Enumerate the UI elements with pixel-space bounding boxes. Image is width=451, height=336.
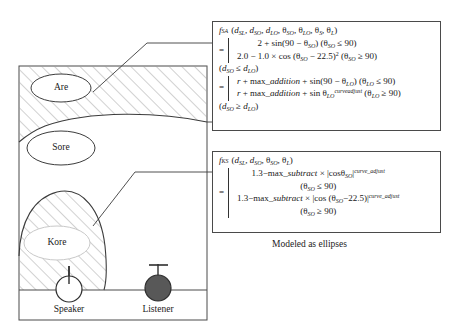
equals-sign: = (219, 46, 228, 56)
ellipse-label-sore: Sore (41, 143, 81, 153)
case-brace (228, 38, 234, 63)
formula-ks-case1-line1: 1.3−max_subtract × |cosθSO|curve_adjust (237, 168, 399, 181)
ellipse-label-kore: Kore (37, 238, 77, 248)
actor-label-speaker: Speaker (44, 305, 94, 315)
formula-sa-cases-1: = 2 + sin(90 − θSO) (θSO ≤ 90) 2.0 − 1.0… (219, 38, 435, 63)
formula-sa-case1-line2: 2.0 − 1.0 × cos (θSO − 22.5)2 (θSO ≥ 90) (237, 51, 377, 64)
case-brace (228, 168, 234, 218)
figure-root: Are Sore Kore Speaker Listener fSA (dSL,… (0, 0, 451, 336)
formula-sa-case1-line1: 2 + sin(90 − θSO) (θSO ≤ 90) (237, 38, 377, 50)
formula-ks-signature: fKS (dSL, dSO, θSO, θL) (219, 156, 435, 166)
formula-ks-case2-condition: (θSO ≥ 90) (237, 206, 399, 218)
formula-sa-cases-2: = r + max_addition + sin(90 − θLO) (θLO … (219, 76, 435, 101)
formula-sa-condition-2: (dSO ≥ dLO) (219, 102, 435, 112)
formula-sa-signature: fSA (dSL, dSO, dLO, θSO, θLO, θS, θL) (219, 26, 435, 36)
caption-modeled-as-ellipses: Modeled as ellipses (272, 240, 347, 250)
ellipse-label-are: Are (41, 83, 81, 93)
formula-box-ks: fKS (dSL, dSO, θSO, θL) = 1.3−max_subtra… (212, 151, 441, 233)
formula-sa-case2-line2: r + max_addition + sin θLOcurveadjust (θ… (237, 88, 401, 101)
formula-ks-case1-condition: (θSO ≤ 90) (237, 181, 399, 193)
formula-sa-case2-line1: r + max_addition + sin(90 − θLO) (θLO ≤ … (237, 76, 401, 88)
case-brace (228, 76, 234, 101)
formula-ks-cases: = 1.3−max_subtract × |cosθSO|curve_adjus… (219, 168, 435, 218)
equals-sign: = (219, 188, 228, 198)
equals-sign: = (219, 83, 228, 93)
formula-sa-condition-1: (dSO ≤ dLO) (219, 64, 435, 74)
formula-ks-case2-line1: 1.3−max_subtract × |cos (θSO−22.5)|curve… (237, 193, 399, 206)
actor-label-listener: Listener (133, 305, 183, 315)
formula-box-sa: fSA (dSL, dSO, dLO, θSO, θLO, θS, θL) = … (212, 21, 441, 131)
